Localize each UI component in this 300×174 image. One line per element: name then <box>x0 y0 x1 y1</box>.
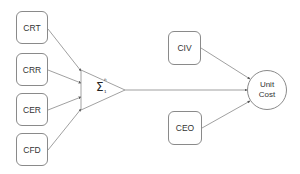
sigma-glyph: Σ <box>96 80 104 94</box>
node-crr: CRR <box>16 53 48 86</box>
sigma-lower-limit: 1 <box>104 89 107 94</box>
edge-cer-sum <box>48 97 81 110</box>
unit-cost-line2: Cost <box>259 90 275 100</box>
node-label: CRT <box>23 23 40 33</box>
edge-cfd-sum <box>48 109 81 150</box>
node-label: CEO <box>176 123 194 133</box>
edge-crr-sum <box>48 70 81 83</box>
node-label: CRR <box>23 65 41 75</box>
node-cfd: CFD <box>16 133 48 166</box>
node-unit-cost: Unit Cost <box>247 70 287 110</box>
node-label: CIV <box>177 43 191 53</box>
node-crt: CRT <box>16 11 48 44</box>
node-civ: CIV <box>168 31 201 65</box>
node-label: CER <box>23 105 41 115</box>
summation-symbol: Σ n 1 <box>96 80 104 94</box>
edge-civ-unitcost <box>201 48 250 79</box>
edge-crt-sum <box>48 29 81 71</box>
unit-cost-line1: Unit <box>260 80 274 90</box>
node-cer: CER <box>16 93 48 126</box>
node-ceo: CEO <box>168 111 202 145</box>
edge-ceo-unitcost <box>202 101 250 128</box>
node-label: CFD <box>23 145 40 155</box>
sigma-upper-limit: n <box>104 77 107 82</box>
